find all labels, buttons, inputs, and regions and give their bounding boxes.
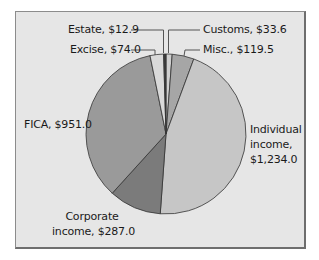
label-individual: Individual income, $1,234.0 bbox=[250, 122, 302, 167]
label-misc: Misc., $119.5 bbox=[203, 42, 274, 57]
leader-lines bbox=[131, 30, 200, 56]
label-excise: Excise, $74.0 bbox=[70, 42, 141, 57]
label-customs: Customs, $33.6 bbox=[203, 22, 287, 37]
pie-slices bbox=[86, 54, 246, 214]
label-corporate-line2: income, $287.0 bbox=[52, 224, 132, 239]
leader-misc bbox=[184, 50, 200, 56]
label-individual-line2: income, bbox=[250, 137, 302, 152]
label-corporate-line1: Corporate bbox=[52, 209, 132, 224]
label-estate: Estate, $12.9 bbox=[68, 22, 139, 37]
label-individual-line1: Individual bbox=[250, 122, 302, 137]
label-individual-line3: $1,234.0 bbox=[250, 152, 302, 167]
label-fica: FICA, $951.0 bbox=[24, 117, 92, 132]
label-corporate: Corporate income, $287.0 bbox=[52, 209, 132, 239]
